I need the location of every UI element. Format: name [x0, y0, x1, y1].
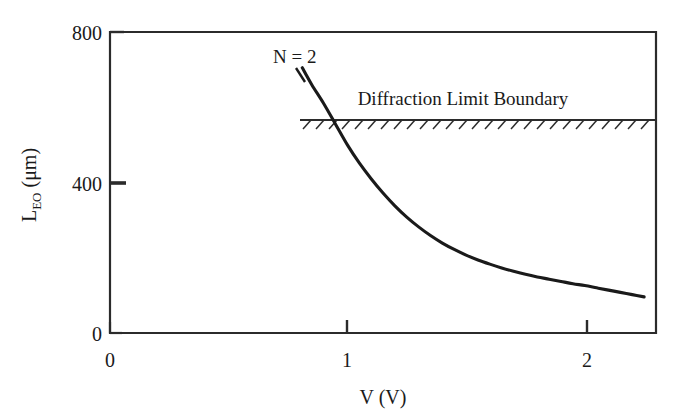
- y-tick-label-0: 0: [92, 323, 102, 345]
- x-axis-title: V (V): [360, 386, 407, 409]
- chart-figure: 800 400 0 0 1 2 V (V) LEO (μm): [0, 0, 686, 418]
- series-label-n2: N = 2: [273, 46, 316, 67]
- chart-svg: 800 400 0 0 1 2 V (V) LEO (μm): [0, 0, 686, 418]
- x-tick-label-1: 1: [342, 349, 352, 371]
- y-tick-label-400: 400: [72, 173, 102, 195]
- diffraction-limit-label: Diffraction Limit Boundary: [358, 88, 569, 109]
- x-tick-label-2: 2: [582, 349, 592, 371]
- y-axis-title-subscript: EO: [29, 193, 44, 210]
- y-axis-title-base: L: [18, 210, 40, 222]
- x-tick-label-0: 0: [105, 349, 115, 371]
- y-axis-title-unit: (μm): [18, 148, 41, 193]
- y-tick-label-800: 800: [72, 22, 102, 44]
